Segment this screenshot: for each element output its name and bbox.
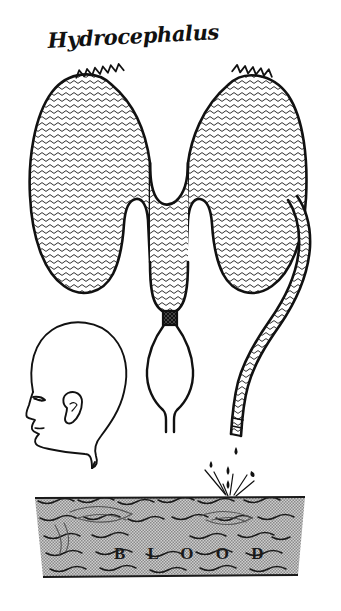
aqueduct-block-fill <box>163 311 177 325</box>
splash-rays-icon <box>205 470 254 496</box>
fourth-ventricle <box>147 325 193 432</box>
droplet-2 <box>227 466 230 475</box>
droplet-5 <box>250 471 254 477</box>
droplet-3 <box>227 480 230 489</box>
fourth-ventricle-left-wall <box>147 325 166 432</box>
infant-head-profile <box>26 322 126 468</box>
blood-label: B L O O D <box>114 544 272 563</box>
left-ventricle-fill <box>20 60 165 310</box>
blood-pool-fill <box>35 497 305 577</box>
hydrocephalus-figure: Hydrocephalus <box>0 0 341 611</box>
blood-pool: B L O O D <box>35 497 305 577</box>
illustration-canvas: Hydrocephalus <box>0 0 341 611</box>
mouth-line <box>35 428 44 429</box>
left-lateral-ventricle <box>20 60 165 310</box>
page-title: Hydrocephalus <box>46 19 220 53</box>
csf-droplets <box>205 447 255 496</box>
fourth-ventricle-right-wall <box>174 325 193 432</box>
cerebral-aqueduct-stenosis <box>163 311 177 325</box>
ear-icon <box>63 392 82 423</box>
droplet-4 <box>210 461 213 468</box>
blood-surface-line <box>35 497 305 498</box>
droplet-1 <box>235 447 238 455</box>
ear-inner-detail <box>70 403 77 411</box>
